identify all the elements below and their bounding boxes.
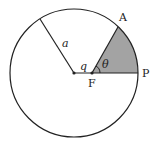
label-point-f: F [88, 77, 96, 90]
label-point-p: P [142, 67, 150, 80]
radius-line [40, 19, 74, 73]
circle-sector-diagram: a q θ A F P [0, 0, 159, 147]
label-angle-theta: θ [102, 58, 109, 71]
focus-point [90, 71, 93, 74]
label-point-a: A [118, 11, 128, 24]
label-offset-q: q [80, 60, 87, 73]
center-point [72, 71, 75, 74]
label-radius-a: a [62, 37, 69, 50]
shaded-region [92, 27, 138, 73]
